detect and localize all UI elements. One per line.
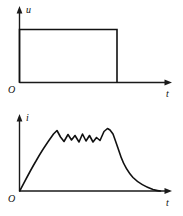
voltage-x-axis-label: t bbox=[166, 88, 169, 99]
voltage-pulse-chart: u t O bbox=[0, 0, 183, 104]
voltage-x-axis-arrow-icon bbox=[165, 80, 173, 86]
current-x-axis-label: t bbox=[166, 197, 169, 208]
voltage-y-axis-label: u bbox=[26, 4, 31, 15]
current-x-axis-arrow-icon bbox=[165, 188, 173, 194]
voltage-pulse-waveform bbox=[20, 30, 118, 83]
current-origin-label: O bbox=[8, 193, 15, 204]
voltage-origin-label: O bbox=[8, 84, 15, 95]
current-y-axis-arrow-icon bbox=[17, 114, 23, 122]
current-response-chart: i t O bbox=[0, 104, 183, 216]
voltage-y-axis-arrow-icon bbox=[17, 6, 23, 14]
current-response-waveform bbox=[20, 129, 161, 192]
waveform-figure: u t O i t O bbox=[0, 0, 183, 216]
current-y-axis-label: i bbox=[26, 112, 29, 123]
